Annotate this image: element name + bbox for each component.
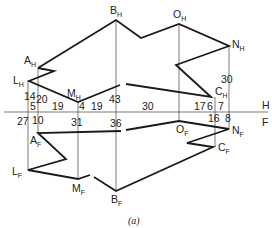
svg-text:6: 6 bbox=[207, 100, 213, 112]
label-n-h: NH bbox=[232, 38, 245, 52]
svg-text:4: 4 bbox=[79, 100, 85, 112]
fold-label-f: F bbox=[262, 116, 268, 128]
label-c-f: CF bbox=[218, 141, 230, 155]
svg-text:27: 27 bbox=[17, 115, 29, 127]
label-m-f: MF bbox=[72, 182, 85, 196]
svg-text:7: 7 bbox=[218, 100, 224, 112]
svg-text:17: 17 bbox=[194, 100, 206, 112]
svg-text:10: 10 bbox=[32, 114, 44, 126]
label-b-h: BH bbox=[110, 4, 122, 18]
svg-text:36: 36 bbox=[110, 117, 122, 129]
label-n-f: NF bbox=[232, 124, 244, 138]
orthographic-projection-diagram: H F BH OH NH AH LH MH CH 14 5 20 19 4 19 bbox=[0, 0, 272, 228]
svg-text:30: 30 bbox=[221, 73, 233, 85]
svg-text:19: 19 bbox=[91, 100, 103, 112]
label-a-h: AH bbox=[24, 54, 36, 68]
fold-label-h: H bbox=[262, 99, 270, 111]
svg-text:30: 30 bbox=[142, 100, 154, 112]
label-a-f: AF bbox=[30, 134, 41, 148]
label-b-f: BF bbox=[111, 193, 122, 207]
svg-text:16: 16 bbox=[208, 112, 220, 124]
svg-text:31: 31 bbox=[71, 116, 83, 128]
label-o-f: OF bbox=[176, 123, 188, 137]
figure-caption: (a) bbox=[128, 215, 140, 227]
svg-text:20: 20 bbox=[36, 93, 48, 105]
front-view-outline bbox=[28, 121, 229, 191]
label-l-f: LF bbox=[12, 165, 22, 179]
svg-text:8: 8 bbox=[225, 112, 231, 124]
svg-text:19: 19 bbox=[52, 100, 64, 112]
label-l-h: LH bbox=[13, 74, 24, 88]
label-c-h: CH bbox=[215, 85, 228, 99]
label-o-h: OH bbox=[173, 8, 186, 22]
top-view-outline bbox=[29, 20, 229, 102]
svg-text:43: 43 bbox=[109, 93, 121, 105]
label-m-h: MH bbox=[67, 87, 81, 101]
front-view-dimensions: 27 10 31 36 16 8 bbox=[17, 112, 231, 129]
